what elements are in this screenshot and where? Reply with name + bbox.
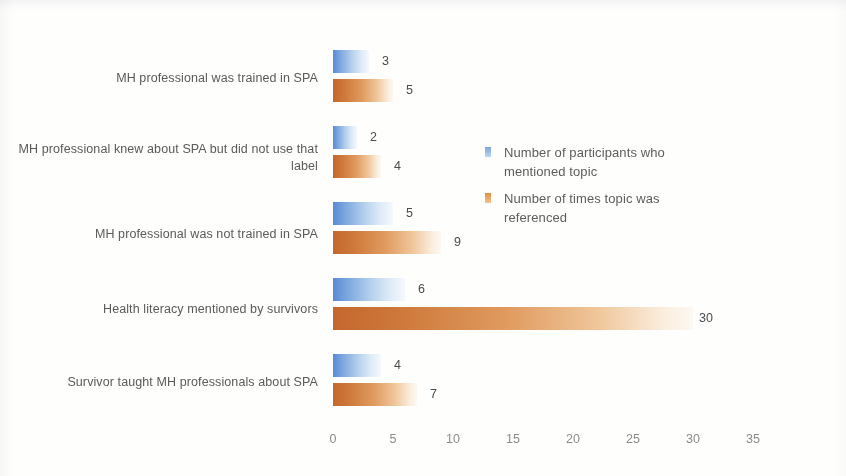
legend-item-references: Number of times topic was referenced xyxy=(485,189,715,226)
orange-square-icon xyxy=(485,193,491,203)
x-tick-20: 20 xyxy=(558,432,588,446)
chart-legend: Number of participants who mentioned top… xyxy=(485,143,715,235)
category-label-1: MH professional knew about SPA but did n… xyxy=(18,141,318,175)
x-tick-0: 0 xyxy=(318,432,348,446)
bar-value-references-4: 7 xyxy=(329,383,437,406)
x-tick-25: 25 xyxy=(618,432,648,446)
bar-value-participants-1: 2 xyxy=(329,126,377,149)
x-tick-35: 35 xyxy=(738,432,768,446)
category-label-4: Survivor taught MH professionals about S… xyxy=(18,374,318,391)
plot-area: MH professional was trained in SPA MH pr… xyxy=(0,0,846,476)
bar-value-participants-4: 4 xyxy=(329,354,401,377)
blue-square-icon xyxy=(485,147,491,157)
bar-value-references-2: 9 xyxy=(329,231,461,254)
legend-item-participants: Number of participants who mentioned top… xyxy=(485,143,715,180)
bar-value-references-0: 5 xyxy=(329,79,413,102)
legend-label-references: Number of times topic was referenced xyxy=(504,191,660,225)
category-label-0: MH professional was trained in SPA xyxy=(18,70,318,87)
bar-value-references-1: 4 xyxy=(329,155,401,178)
bar-value-participants-2: 5 xyxy=(329,202,413,225)
legend-label-participants: Number of participants who mentioned top… xyxy=(504,145,665,179)
bar-chart: MH professional was trained in SPA MH pr… xyxy=(0,0,846,476)
bar-value-references-3: 30 xyxy=(329,307,713,330)
bar-value-participants-0: 3 xyxy=(329,50,389,73)
x-tick-15: 15 xyxy=(498,432,528,446)
category-label-2: MH professional was not trained in SPA xyxy=(18,226,318,243)
x-tick-10: 10 xyxy=(438,432,468,446)
x-tick-5: 5 xyxy=(378,432,408,446)
bar-value-participants-3: 6 xyxy=(329,278,425,301)
category-label-3: Health literacy mentioned by survivors xyxy=(18,301,318,318)
x-tick-30: 30 xyxy=(678,432,708,446)
